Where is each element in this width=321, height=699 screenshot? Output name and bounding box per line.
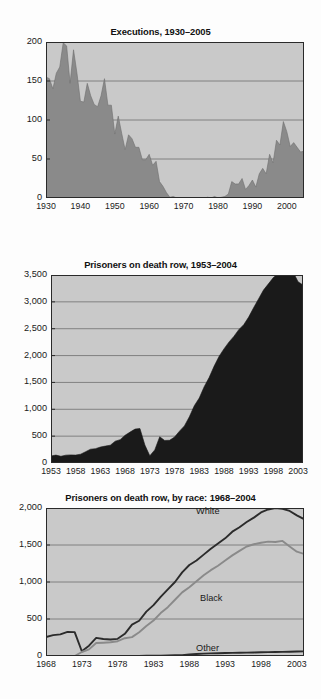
plot-area-death-row-total: [51, 275, 303, 463]
figure-executions: Executions, 1930–2005 050100150200 19301…: [0, 0, 321, 233]
series-label-other: Other: [196, 643, 219, 653]
p3-svg: [46, 508, 304, 656]
x-axis-labels-death-row-by-race: 19681973197819831988199319982003: [46, 660, 304, 674]
chart-title-death-row-total: Prisoners on death row, 1953–2004: [0, 259, 321, 270]
y-axis-labels-executions: 050100150200: [2, 42, 42, 198]
y-tick-label: 2,500: [24, 324, 47, 333]
x-axis-labels-executions: 19301940195019601970198019902000: [46, 202, 304, 216]
x-tick-label: 1990: [243, 202, 263, 211]
figure-death-row-total: Prisoners on death row, 1953–2004 05001,…: [0, 233, 321, 466]
plot-area-executions: [46, 42, 304, 198]
x-tick-label: 2000: [277, 202, 297, 211]
p1-svg: [46, 42, 304, 198]
x-tick-label: 1993: [215, 660, 235, 669]
p2-svg: [51, 275, 303, 463]
x-tick-label: 1978: [108, 660, 128, 669]
y-tick-label: 500: [32, 432, 47, 441]
chart-title-death-row-by-race: Prisoners on death row, by race: 1968–20…: [0, 492, 321, 503]
x-tick-label: 1940: [71, 202, 91, 211]
y-tick-label: 50: [32, 154, 42, 163]
x-tick-label: 1988: [180, 660, 200, 669]
chart-title-executions: Executions, 1930–2005: [0, 26, 321, 37]
x-tick-label: 1983: [144, 660, 164, 669]
y-tick-label: 100: [27, 115, 42, 124]
series-label-black: Black: [200, 593, 222, 603]
plot-area-death-row-by-race: [46, 508, 304, 656]
y-tick-label: 200: [27, 37, 42, 46]
y-tick-label: 3,500: [24, 270, 47, 279]
figure-death-row-by-race: Prisoners on death row, by race: 1968–20…: [0, 466, 321, 699]
y-tick-label: 500: [27, 614, 42, 623]
y-tick-label: 1,000: [19, 577, 42, 586]
x-tick-label: 1998: [251, 660, 271, 669]
y-tick-label: 1,000: [24, 405, 47, 414]
y-axis-labels-death-row-total: 05001,0001,5002,0002,5003,0003,500: [7, 275, 47, 463]
x-tick-label: 2003: [287, 660, 307, 669]
x-tick-label: 1970: [174, 202, 194, 211]
y-tick-label: 2,000: [19, 503, 42, 512]
x-tick-label: 1930: [36, 202, 56, 211]
x-tick-label: 1973: [72, 660, 92, 669]
y-tick-label: 150: [27, 76, 42, 85]
y-tick-label: 2,000: [24, 351, 47, 360]
y-tick-label: 1,500: [24, 378, 47, 387]
y-axis-labels-death-row-by-race: 05001,0001,5002,000: [2, 508, 42, 656]
x-tick-label: 1950: [105, 202, 125, 211]
y-tick-label: 1,500: [19, 540, 42, 549]
chart-page: Executions, 1930–2005 050100150200 19301…: [0, 0, 321, 699]
x-tick-label: 1980: [208, 202, 228, 211]
x-tick-label: 1968: [36, 660, 56, 669]
series-label-white: White: [196, 506, 220, 516]
y-tick-label: 3,000: [24, 297, 47, 306]
x-tick-label: 1960: [139, 202, 159, 211]
